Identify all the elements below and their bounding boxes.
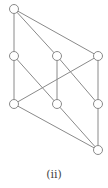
node-m3 [53,100,62,109]
node-r3 [94,100,103,109]
node-m2 [53,52,62,61]
edge-top-r2 [14,9,98,56]
edge-top-m2 [14,9,57,56]
node-top [10,5,19,14]
node-r2 [94,52,103,61]
edges [14,9,98,150]
edge-l3-bottom [14,104,98,150]
figure-caption: (ii) [0,168,108,181]
edge-l2-m3 [14,56,57,104]
hasse-diagram [0,0,108,188]
edge-m3-bottom [57,104,98,150]
node-l3 [10,100,19,109]
edge-m2-r3 [57,56,98,104]
node-l2 [10,52,19,61]
node-bottom [94,146,103,155]
edge-r2-l3 [14,56,98,104]
